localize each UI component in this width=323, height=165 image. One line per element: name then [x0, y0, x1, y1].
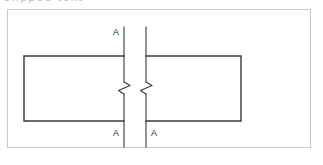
drawing-canvas: [0, 0, 323, 165]
left-section-break-line: [119, 27, 131, 147]
section-label-a-top-left: A: [113, 28, 119, 37]
section-label-a-bottom-left: A: [113, 129, 119, 138]
left-member-outline: [24, 56, 124, 121]
section-drawing-svg: [0, 0, 323, 165]
right-member-outline: [146, 56, 241, 121]
section-label-a-bottom-right: A: [151, 129, 157, 138]
drawing-screenshot: clipped text A: [0, 0, 323, 165]
